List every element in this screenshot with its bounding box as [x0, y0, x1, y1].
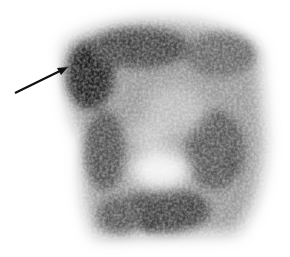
arrow-icon: [15, 67, 68, 93]
noise-texture: [0, 0, 290, 257]
scan-image: [0, 0, 290, 257]
scan-graphic: [0, 0, 290, 257]
